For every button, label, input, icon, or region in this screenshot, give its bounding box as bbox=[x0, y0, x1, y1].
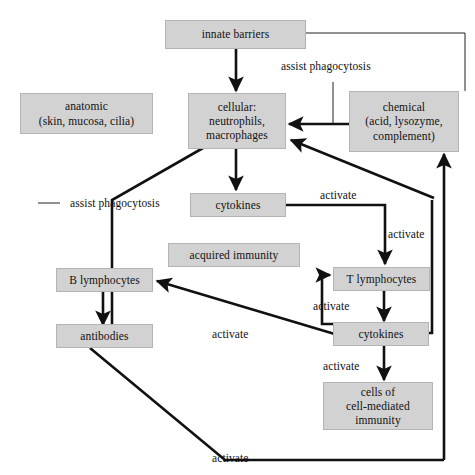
label-activate-cytokines-right: activate bbox=[320, 189, 357, 202]
node-antibodies[interactable]: antibodies bbox=[56, 324, 153, 348]
node-cytokines-innate[interactable]: cytokines bbox=[190, 193, 286, 217]
immunity-flow-diagram: innate barriers anatomic (skin, mucosa, … bbox=[0, 0, 475, 475]
label-activate-cell-mediated: activate bbox=[323, 360, 360, 373]
node-cytokines-adaptive[interactable]: cytokines bbox=[333, 322, 429, 346]
node-cell-mediated-immunity[interactable]: cells of cell-mediated immunity bbox=[323, 382, 433, 430]
edge-cytokines-to-t-lymphocytes bbox=[286, 205, 385, 264]
node-t-lymphocytes[interactable]: T lymphocytes bbox=[333, 267, 430, 291]
label-activate-bottom: activate bbox=[212, 452, 249, 465]
node-b-lymphocytes[interactable]: B lymphocytes bbox=[56, 268, 153, 292]
node-acquired-immunity[interactable]: acquired immunity bbox=[168, 243, 300, 267]
node-innate-barriers[interactable]: innate barriers bbox=[165, 20, 306, 49]
label-activate-b-lymphocytes: activate bbox=[212, 328, 249, 341]
label-assist-phagocytosis-top: assist phagocytosis bbox=[281, 60, 371, 73]
label-assist-phagocytosis-left: assist phagocytosis bbox=[70, 197, 160, 210]
node-anatomic[interactable]: anatomic (skin, mucosa, cilia) bbox=[20, 93, 153, 134]
label-activate-t-from-cytokines: activate bbox=[313, 300, 350, 313]
label-activate-t-lymphocytes: activate bbox=[388, 228, 425, 241]
node-chemical[interactable]: chemical (acid, lysozyme, complement) bbox=[349, 91, 459, 152]
node-cellular[interactable]: cellular: neutrophils, macrophages bbox=[188, 93, 286, 149]
